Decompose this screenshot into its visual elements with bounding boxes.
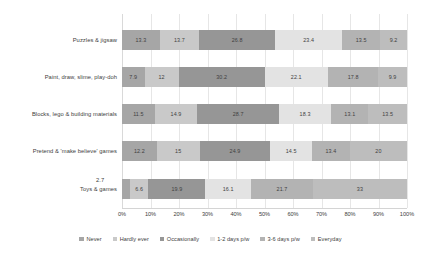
bar-row: 11.514.928.718.313.113.5	[122, 104, 407, 124]
chart-legend: NeverHardly everOccasionally1-2 days p/w…	[0, 236, 421, 242]
bar-segment-value: 16.1	[223, 186, 234, 192]
bar-segment[interactable]: 21.7	[251, 179, 313, 199]
bar-segment-value: 9.9	[389, 74, 397, 80]
bar-segment[interactable]	[122, 179, 130, 199]
legend-swatch-icon	[79, 237, 84, 242]
bar-segment-value: 13.1	[344, 111, 355, 117]
bar-segment-value: 14.5	[286, 148, 297, 154]
x-axis-tick: 90%	[373, 211, 384, 217]
legend-item[interactable]: Hardly ever	[113, 236, 149, 242]
bar-segment-value: 33	[357, 186, 363, 192]
bar-segment-value: 19.9	[171, 186, 182, 192]
bar-segment[interactable]: 14.9	[155, 104, 197, 124]
bar-segment[interactable]: 19.9	[148, 179, 205, 199]
bar-row: 12.21524.914.513.420	[122, 141, 407, 161]
bar-segment-value: 13.4	[325, 148, 336, 154]
legend-label: Everyday	[318, 236, 342, 242]
legend-label: 3-6 days p/w	[267, 236, 299, 242]
bar-segment[interactable]: 22.1	[265, 67, 328, 87]
bar-segment-value: 13.3	[135, 37, 146, 43]
legend-item[interactable]: Occasionally	[160, 236, 199, 242]
bar-segment-value: 18.3	[300, 111, 311, 117]
gridline-100	[407, 14, 408, 208]
bar-segment-value: 24.9	[230, 148, 241, 154]
bar-segment-value: 22.1	[291, 74, 302, 80]
x-axis-tick-labels: 0%10%20%30%40%50%60%70%80%90%100%	[122, 211, 407, 223]
legend-swatch-icon	[260, 237, 265, 242]
bar-segment[interactable]: 13.7	[160, 30, 199, 50]
bar-segment[interactable]: 13.4	[312, 141, 350, 161]
bar-segment[interactable]: 15	[157, 141, 200, 161]
legend-label: 1-2 days p/w	[217, 236, 249, 242]
x-axis-tick: 50%	[259, 211, 270, 217]
bar-segment[interactable]: 23.4	[275, 30, 342, 50]
annotation-2-7: 2.7	[96, 177, 104, 183]
legend-item[interactable]: Everyday	[311, 236, 342, 242]
bar-segment[interactable]: 28.7	[197, 104, 279, 124]
bar-segment-value: 13.7	[174, 37, 185, 43]
category-label: Puzzles & jigsaw	[0, 30, 117, 50]
bar-segment-value: 11.5	[133, 111, 144, 117]
x-axis-tick: 10%	[145, 211, 156, 217]
x-axis-tick: 0%	[118, 211, 126, 217]
bar-segment[interactable]: 13.5	[368, 104, 406, 124]
bar-segment[interactable]: 13.3	[122, 30, 160, 50]
bar-segment[interactable]: 12.2	[122, 141, 157, 161]
bar-segment-value: 12.2	[134, 148, 145, 154]
legend-label: Occasionally	[167, 236, 199, 242]
bar-segment[interactable]: 14.5	[270, 141, 311, 161]
bar-segment[interactable]: 20	[350, 141, 407, 161]
category-label: Paint, draw, slime, play-doh	[0, 67, 117, 87]
legend-swatch-icon	[311, 237, 316, 242]
legend-item[interactable]: Never	[79, 236, 101, 242]
bar-segment[interactable]: 11.5	[122, 104, 155, 124]
x-axis-tick: 70%	[316, 211, 327, 217]
bar-segment[interactable]: 6.6	[130, 179, 149, 199]
bar-segment[interactable]: 9.2	[380, 30, 406, 50]
bar-row: 6.619.916.121.733	[122, 179, 407, 199]
legend-swatch-icon	[113, 237, 118, 242]
category-label: Pretend & 'make believe' games	[0, 141, 117, 161]
bar-segment-value: 15	[175, 148, 181, 154]
bar-row: 7.91230.222.117.89.9	[122, 67, 407, 87]
category-label: Blocks, lego & building materials	[0, 104, 117, 124]
bar-segment-value: 13.5	[356, 37, 367, 43]
x-axis-tick: 60%	[287, 211, 298, 217]
x-axis-tick: 80%	[344, 211, 355, 217]
bar-segment[interactable]: 24.9	[200, 141, 271, 161]
legend-swatch-icon	[160, 237, 165, 242]
x-axis-line	[122, 208, 407, 209]
x-axis-tick: 30%	[202, 211, 213, 217]
plot-area: 13.313.726.823.413.59.27.91230.222.117.8…	[122, 14, 407, 208]
bar-segment-value: 20	[375, 148, 381, 154]
bar-segment[interactable]: 13.1	[331, 104, 368, 124]
x-axis-tick: 100%	[400, 211, 414, 217]
bar-segment[interactable]: 9.9	[378, 67, 406, 87]
x-axis-tick: 20%	[173, 211, 184, 217]
bar-segment[interactable]: 30.2	[179, 67, 265, 87]
legend-label: Hardly ever	[120, 236, 149, 242]
bar-segment-value: 6.6	[135, 186, 143, 192]
bar-segment-value: 17.8	[348, 74, 359, 80]
bar-segment-value: 7.9	[129, 74, 137, 80]
legend-item[interactable]: 1-2 days p/w	[210, 236, 249, 242]
legend-item[interactable]: 3-6 days p/w	[260, 236, 299, 242]
bar-segment-value: 30.2	[216, 74, 227, 80]
legend-swatch-icon	[210, 237, 215, 242]
bar-segment[interactable]: 13.5	[342, 30, 380, 50]
x-axis-tick: 40%	[230, 211, 241, 217]
bar-segment-value: 21.7	[277, 186, 288, 192]
bar-segment-value: 23.4	[303, 37, 314, 43]
bar-segment[interactable]: 17.8	[328, 67, 379, 87]
bar-segment[interactable]: 16.1	[205, 179, 251, 199]
bar-segment[interactable]: 7.9	[122, 67, 145, 87]
bar-row: 13.313.726.823.413.59.2	[122, 30, 407, 50]
bar-segment-value: 28.7	[233, 111, 244, 117]
bar-segment[interactable]: 33	[313, 179, 407, 199]
bar-segment[interactable]: 12	[145, 67, 179, 87]
bar-segment-value: 12	[158, 74, 164, 80]
bar-segment[interactable]: 18.3	[279, 104, 331, 124]
bar-segment[interactable]: 26.8	[199, 30, 275, 50]
bar-segment-value: 26.8	[232, 37, 243, 43]
bar-segment-value: 14.9	[171, 111, 182, 117]
